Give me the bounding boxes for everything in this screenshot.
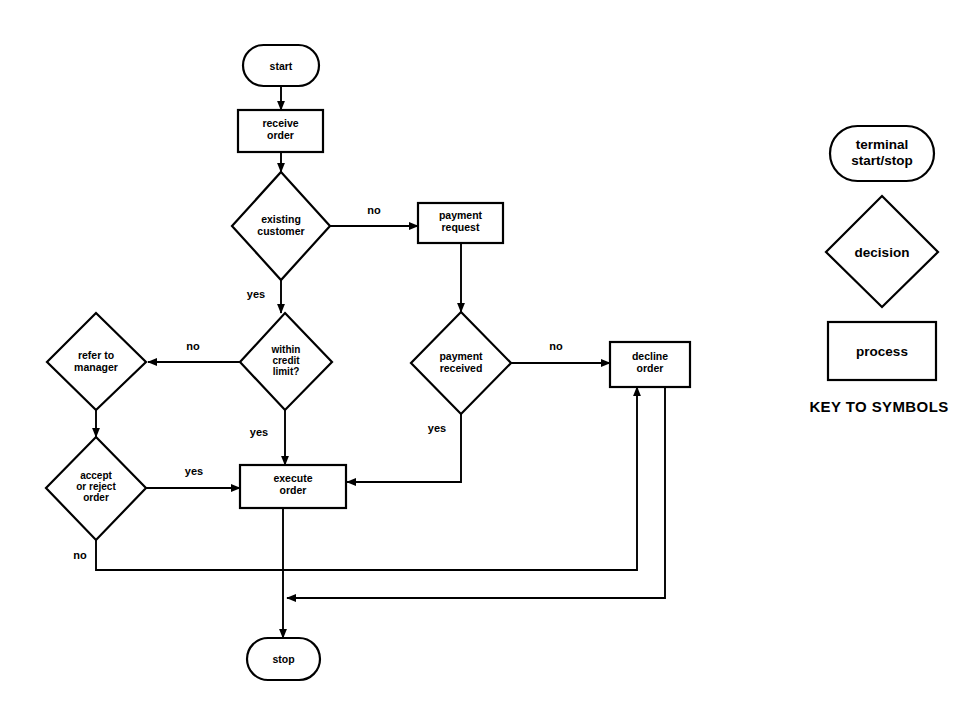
within-credit-limit-label-line1: within: [271, 344, 301, 355]
node-refer-to-manager[interactable]: refer to manager: [47, 313, 146, 410]
accept-or-reject-label-line1: accept: [80, 470, 112, 481]
execute-order-label-line1: execute: [273, 472, 312, 484]
legend-item-decision: decision: [826, 196, 938, 307]
node-within-credit-limit[interactable]: within credit limit?: [240, 313, 332, 410]
edge-label-existing-customer-no: no: [367, 204, 381, 216]
edge-accept-or-reject-no-to-decline-order: [96, 387, 637, 570]
edge-label-accept-or-reject-yes: yes: [185, 465, 203, 477]
node-start[interactable]: start: [243, 45, 319, 86]
decline-order-label-line2: order: [637, 362, 664, 374]
legend-terminal-label-line2: start/stop: [851, 153, 913, 168]
legend-key-to-symbols: terminal start/stop decision process KEY…: [809, 126, 948, 415]
edge-label-within-credit-limit-no: no: [186, 340, 200, 352]
execute-order-label-line2: order: [280, 484, 307, 496]
node-execute-order[interactable]: execute order: [240, 465, 346, 508]
edge-label-accept-or-reject-no: no: [73, 549, 87, 561]
decline-order-label-line1: decline: [632, 350, 668, 362]
legend-heading: KEY TO SYMBOLS: [809, 398, 948, 415]
within-credit-limit-label-line3: limit?: [273, 366, 300, 377]
legend-item-process: process: [828, 322, 936, 380]
connectors: [96, 86, 665, 638]
payment-request-label-line2: request: [442, 221, 480, 233]
existing-customer-label-line1: existing: [261, 213, 301, 225]
flowchart-svg: no yes no yes no yes yes no start receiv…: [0, 0, 964, 716]
edge-label-payment-received-no: no: [549, 340, 563, 352]
refer-to-manager-label-line1: refer to: [78, 349, 114, 361]
receive-order-label-line1: receive: [262, 117, 298, 129]
refer-to-manager-label-line2: manager: [74, 361, 118, 373]
node-stop[interactable]: stop: [247, 638, 320, 680]
within-credit-limit-label-line2: credit: [272, 355, 300, 366]
legend-terminal-label-line1: terminal: [856, 137, 909, 152]
stop-label: stop: [272, 653, 294, 665]
payment-received-label-line2: received: [440, 362, 483, 374]
node-payment-request[interactable]: payment request: [418, 203, 503, 243]
edge-label-existing-customer-yes: yes: [247, 288, 265, 300]
legend-item-terminal: terminal start/stop: [830, 126, 934, 181]
accept-or-reject-label-line2: or reject: [76, 481, 116, 492]
payment-request-label-line1: payment: [439, 209, 483, 221]
existing-customer-label-line2: customer: [257, 225, 304, 237]
accept-or-reject-label-line3: order: [83, 492, 109, 503]
node-decline-order[interactable]: decline order: [610, 342, 690, 387]
legend-decision-label: decision: [855, 245, 910, 260]
node-existing-customer[interactable]: existing customer: [232, 172, 330, 280]
receive-order-label-line2: order: [267, 129, 294, 141]
flowchart-canvas: no yes no yes no yes yes no start receiv…: [0, 0, 964, 716]
node-receive-order[interactable]: receive order: [238, 110, 323, 152]
node-payment-received[interactable]: payment received: [411, 312, 511, 414]
start-label: start: [270, 60, 293, 72]
node-accept-or-reject-order[interactable]: accept or reject order: [46, 437, 146, 540]
edge-label-payment-received-yes: yes: [428, 422, 446, 434]
edge-label-within-credit-limit-yes: yes: [250, 426, 268, 438]
payment-received-label-line1: payment: [439, 350, 483, 362]
legend-process-label: process: [856, 344, 908, 359]
